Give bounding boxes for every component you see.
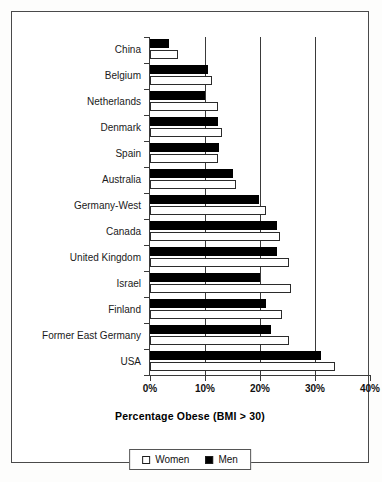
bar-men — [150, 91, 205, 100]
bar-men — [150, 39, 169, 48]
x-tick-label-40: 40% — [347, 383, 382, 394]
legend-entry-men: Men — [205, 454, 237, 465]
bar-women — [150, 128, 222, 137]
bar-women — [150, 206, 266, 215]
bar-group — [150, 63, 370, 89]
bar-men — [150, 65, 208, 74]
legend-swatch-women-icon — [142, 456, 150, 464]
category-labels: ChinaBelgiumNetherlandsDenmarkSpainAustr… — [12, 37, 145, 375]
category-label-finland: Finland — [12, 304, 141, 315]
category-label-spain: Spain — [12, 148, 141, 159]
category-label-denmark: Denmark — [12, 122, 141, 133]
bar-women — [150, 232, 280, 241]
bar-men — [150, 325, 271, 334]
bar-men — [150, 273, 260, 282]
x-tick-label-10: 10% — [182, 383, 228, 394]
bar-group — [150, 141, 370, 167]
chart-frame: 0%10%20%30%40% ChinaBelgiumNetherlandsDe… — [11, 11, 369, 463]
x-tick-label-30: 30% — [292, 383, 338, 394]
bar-men — [150, 221, 277, 230]
bar-group — [150, 219, 370, 245]
x-axis-title: Percentage Obese (BMI > 30) — [12, 410, 368, 422]
bar-men — [150, 117, 218, 126]
bar-men — [150, 299, 266, 308]
bar-women — [150, 50, 178, 59]
x-tick-label-0: 0% — [127, 383, 173, 394]
bar-men — [150, 247, 277, 256]
x-tick-30 — [315, 375, 316, 381]
bar-group — [150, 297, 370, 323]
category-label-israel: Israel — [12, 278, 141, 289]
x-tick-40 — [370, 375, 371, 381]
legend-label-women: Women — [155, 454, 189, 465]
category-label-usa: USA — [12, 356, 141, 367]
chart-legend: Women Men — [129, 449, 251, 470]
legend-label-men: Men — [218, 454, 237, 465]
category-label-netherlands: Netherlands — [12, 96, 141, 107]
bar-women — [150, 180, 236, 189]
legend-entry-women: Women — [142, 454, 189, 465]
bar-men — [150, 169, 233, 178]
category-label-germany-west: Germany-West — [12, 200, 141, 211]
category-label-former-east-germany: Former East Germany — [12, 330, 141, 341]
x-tick-0 — [150, 375, 151, 381]
category-label-united-kingdom: United Kingdom — [12, 252, 141, 263]
bar-women — [150, 102, 218, 111]
bar-group — [150, 115, 370, 141]
bar-women — [150, 258, 289, 267]
bar-group — [150, 323, 370, 349]
bar-women — [150, 310, 282, 319]
bar-women — [150, 284, 291, 293]
category-tick — [144, 375, 150, 376]
category-label-canada: Canada — [12, 226, 141, 237]
bar-group — [150, 167, 370, 193]
plot-area — [150, 37, 370, 375]
bar-women — [150, 336, 289, 345]
bar-women — [150, 362, 335, 371]
bar-group — [150, 193, 370, 219]
category-label-australia: Australia — [12, 174, 141, 185]
x-tick-10 — [205, 375, 206, 381]
bar-group — [150, 89, 370, 115]
bar-men — [150, 195, 259, 204]
bar-group — [150, 271, 370, 297]
bar-men — [150, 143, 219, 152]
bar-men — [150, 351, 321, 360]
category-label-china: China — [12, 44, 141, 55]
bar-group — [150, 37, 370, 63]
category-label-belgium: Belgium — [12, 70, 141, 81]
bar-women — [150, 76, 212, 85]
bar-group — [150, 245, 370, 271]
bar-women — [150, 154, 218, 163]
legend-swatch-men-icon — [205, 456, 213, 464]
x-tick-label-20: 20% — [237, 383, 283, 394]
bar-group — [150, 349, 370, 375]
x-tick-20 — [260, 375, 261, 381]
chart-figure: 0%10%20%30%40% ChinaBelgiumNetherlandsDe… — [0, 0, 382, 482]
